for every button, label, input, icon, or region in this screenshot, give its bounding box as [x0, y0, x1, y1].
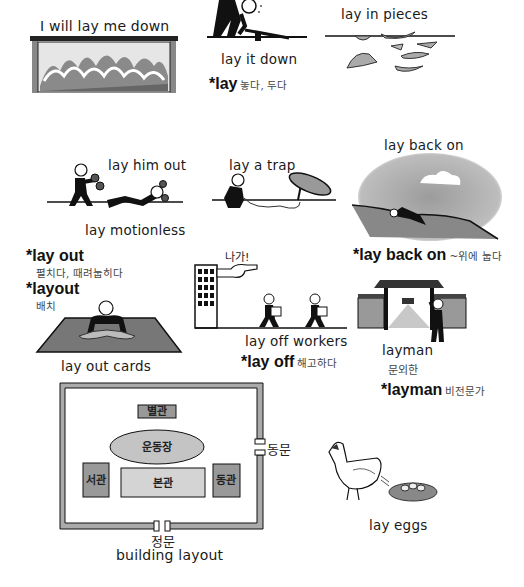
boxer-knockout-illustration — [45, 162, 185, 216]
annex-label: 별관 — [147, 404, 167, 418]
meaning-layman: 비전문가 — [445, 385, 485, 397]
caption-lay-eggs: lay eggs — [369, 517, 427, 533]
soldier-laying-rifle-illustration — [205, 0, 315, 42]
meaning-lay: 놓다, 두다 — [240, 79, 287, 91]
caption-building-layout: building layout — [116, 547, 223, 563]
caption-layman: layman — [382, 342, 433, 358]
layoff-illustration — [195, 255, 350, 330]
caption-lay-it-down: lay it down — [221, 51, 297, 67]
caption-lay-motionless: lay motionless — [85, 222, 186, 238]
definition-lay-back-on: *lay back on~위에 눕다 — [353, 246, 502, 264]
term-lay: *lay — [209, 75, 237, 92]
meaning-lay-back-on: ~위에 눕다 — [449, 250, 501, 262]
term-layman: *layman — [381, 381, 442, 398]
definition-lay-off: *lay off해고하다 — [241, 353, 337, 371]
term-lay-out: *lay out — [26, 247, 84, 265]
definition-lay: *lay놓다, 두다 — [209, 75, 287, 93]
meaning-lay-off: 해고하다 — [297, 357, 337, 369]
shout-get-out: 나가! — [225, 248, 249, 264]
field-label: 운동장 — [142, 440, 172, 454]
trap-illustration — [210, 170, 340, 218]
east-building-label: 동관 — [216, 473, 236, 487]
caption-lay-in-pieces: lay in pieces — [341, 6, 428, 22]
west-building-label: 서관 — [86, 473, 106, 487]
definition-layman: *layman비전문가 — [381, 381, 485, 399]
layman-at-gate-illustration — [358, 272, 468, 342]
caption-lay-out-cards: lay out cards — [61, 358, 151, 374]
east-gate-post — [255, 450, 265, 455]
laying-out-cards-illustration — [35, 296, 185, 356]
term-lay-off: *lay off — [241, 353, 294, 370]
campus-map: 별관 운동장 서관 본관 동관 — [60, 383, 300, 543]
meaning-lay-out: 펼치다, 때려눕히다 — [36, 265, 123, 280]
main-building-label: 본관 — [153, 476, 173, 490]
east-gate-label: 동문 — [267, 439, 291, 458]
main-gate-post — [154, 521, 159, 531]
term-lay-back-on: *lay back on — [353, 246, 446, 263]
burning-bed-illustration — [30, 36, 178, 96]
east-gate-post — [255, 439, 265, 444]
main-gate-post — [165, 521, 170, 531]
reclining-on-hill-illustration — [350, 155, 500, 243]
broken-pieces-illustration — [325, 30, 460, 75]
caption-lay-off-workers: lay off workers — [245, 333, 347, 349]
caption-lay-me-down: I will lay me down — [40, 18, 169, 34]
caption-lay-back-on: lay back on — [384, 137, 464, 153]
caption-layman-korean: 문외한 — [388, 361, 418, 377]
hen-laying-eggs-illustration — [325, 440, 445, 508]
